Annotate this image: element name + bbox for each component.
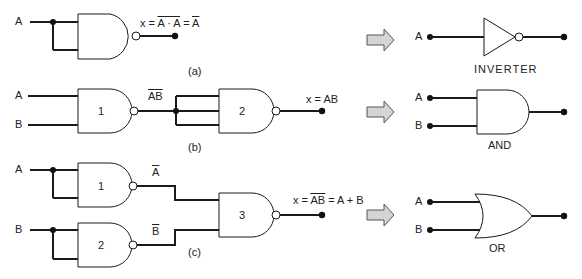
and-input-a-label: A — [415, 92, 422, 103]
nand-gate — [78, 14, 128, 59]
panel-b-circuit — [28, 89, 325, 133]
gate-number-2: 2 — [239, 106, 245, 117]
arrow-right-icon — [367, 29, 394, 51]
nand-gate-1 — [78, 89, 132, 133]
expression-c: x = AB = A + B — [293, 195, 364, 206]
caption-c: (c) — [188, 247, 201, 258]
nand-gate-1 — [78, 163, 132, 207]
and-input-b-label: B — [415, 120, 422, 131]
expression-b: x = AB — [306, 94, 338, 105]
not-a-label: A — [152, 167, 159, 178]
or-input-a-label: A — [415, 196, 422, 207]
input-a-label: A — [15, 164, 22, 175]
or-input-b-label: B — [415, 224, 422, 235]
intermediate-label: AB — [148, 91, 163, 102]
and-title: AND — [488, 140, 511, 151]
or-symbol — [427, 194, 567, 238]
gate-number-1: 1 — [98, 181, 104, 192]
inverter-input-label: A — [415, 31, 422, 42]
nand-gate-2 — [78, 223, 132, 267]
input-b-label: B — [15, 224, 22, 235]
input-a-label: A — [15, 90, 22, 101]
input-a-label: A — [15, 16, 22, 27]
caption-a: (a) — [188, 66, 201, 77]
gate-number-2: 2 — [98, 240, 104, 251]
and-symbol — [427, 90, 567, 134]
arrow-right-icon — [367, 204, 394, 226]
panel-c-circuit — [30, 163, 325, 267]
input-b-label: B — [15, 119, 22, 130]
expression-a: x = A · A = A — [140, 18, 199, 29]
gate-number-3: 3 — [239, 210, 245, 221]
gate-number-1: 1 — [98, 106, 104, 117]
arrow-right-icon — [367, 101, 394, 123]
caption-b: (b) — [188, 142, 201, 153]
not-b-label: B — [152, 226, 159, 237]
nand-gate-3 — [219, 193, 274, 237]
inverter-title: INVERTER — [474, 64, 537, 75]
inverter-symbol — [427, 18, 567, 56]
inversion-bubble — [132, 32, 140, 40]
nand-gate-2 — [219, 89, 274, 133]
or-title: OR — [489, 243, 506, 254]
